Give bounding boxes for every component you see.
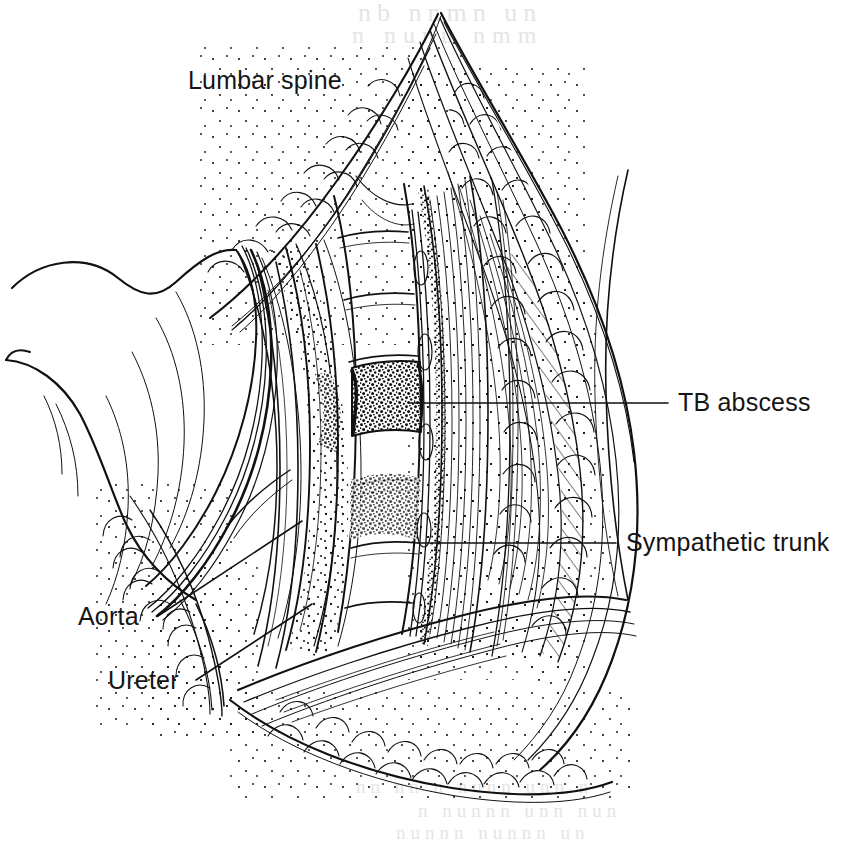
label-tb-abscess: TB abscess [678, 390, 811, 415]
label-lumbar-spine: Lumbar spine [188, 68, 342, 93]
label-ureter: Ureter [108, 668, 179, 693]
anatomical-figure: nb nnmn un n nunu nmm nn nn u nunn unn n… [0, 0, 842, 848]
illustration-canvas [0, 0, 842, 848]
psoas-muscle [418, 176, 518, 660]
label-sympathetic-trunk: Sympathetic trunk [626, 530, 830, 555]
label-aorta: Aorta [78, 604, 139, 629]
